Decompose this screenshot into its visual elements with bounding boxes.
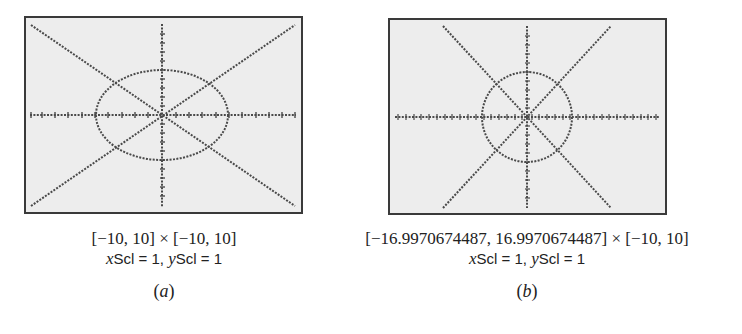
label-letter-b: b — [523, 281, 532, 301]
caption-window-b: [−16.9970674487, 16.9970674487] × [−10, … — [327, 229, 727, 249]
scale-y-text-b: Scl = 1 — [539, 250, 585, 267]
caption-scale-b: xScl = 1, yScl = 1 — [427, 249, 627, 269]
scale-x-text-b: Scl = 1, — [477, 250, 532, 267]
graph-panel-b — [389, 19, 666, 214]
label-letter-a: a — [160, 281, 169, 301]
scale-x-var-a: x — [106, 249, 114, 268]
caption-window-a: [−10, 10] × [−10, 10] — [64, 229, 264, 249]
panel-label-a: (a) — [134, 281, 194, 302]
panel-label-b: (b) — [497, 281, 557, 302]
caption-scale-a: xScl = 1, yScl = 1 — [64, 249, 264, 269]
scale-y-text-a: Scl = 1 — [176, 250, 222, 267]
scale-x-var-b: x — [469, 249, 477, 268]
scale-y-var-a: y — [168, 249, 176, 268]
graph-panel-a — [25, 17, 302, 213]
graph-figure — [0, 0, 742, 334]
label-close-a: ) — [169, 281, 175, 301]
label-close-b: ) — [532, 281, 538, 301]
scale-x-text-a: Scl = 1, — [114, 250, 169, 267]
scale-y-var-b: y — [531, 249, 539, 268]
